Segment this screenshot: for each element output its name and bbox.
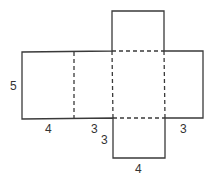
label-left-height: 5	[10, 79, 17, 93]
label-left-width: 4	[45, 122, 52, 136]
label-bottom-square-side: 3	[101, 133, 108, 147]
label-bottom-square-width: 4	[135, 162, 142, 176]
fold-line-middle-right	[164, 51, 165, 118]
label-right-width: 3	[180, 122, 187, 136]
fold-line-middle-left	[112, 51, 113, 118]
label-middle-left-width: 3	[91, 122, 98, 136]
prism-net-diagram: 5 4 3 3 4 3	[0, 0, 215, 182]
